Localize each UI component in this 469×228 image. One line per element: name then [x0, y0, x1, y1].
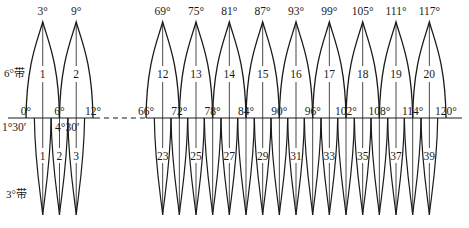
- central-meridian-label: 69°: [155, 5, 172, 17]
- three-degree-zone-31: 31: [288, 118, 305, 215]
- three-degree-boundary-label: 1°30′: [2, 121, 26, 133]
- central-meridian-label: 81°: [221, 5, 238, 17]
- zone-number: 33: [324, 150, 336, 162]
- zone-number: 2: [57, 150, 63, 162]
- zone-number: 19: [390, 68, 402, 80]
- zone-number: 31: [290, 150, 302, 162]
- central-meridian-label: 75°: [188, 5, 205, 17]
- zone-number: 13: [190, 68, 202, 80]
- zone-number: 29: [257, 150, 269, 162]
- zone-number: 3: [73, 150, 79, 162]
- three-degree-zone-25: 25: [188, 118, 205, 215]
- six-degree-zones: 13°29°1269°1375°1481°1587°1693°1799°1810…: [26, 5, 446, 118]
- boundary-degree-label: 12°: [85, 105, 102, 117]
- zone-number: 39: [424, 150, 436, 162]
- six-degree-zone-2: 29°: [59, 5, 92, 118]
- zone-number: 37: [390, 150, 402, 162]
- three-degree-zone-36: [371, 118, 388, 215]
- six-degree-zone-1: 13°: [26, 5, 59, 118]
- boundary-degree-label: 84°: [238, 105, 255, 117]
- zone-number: 16: [290, 68, 302, 80]
- central-meridian-label: 87°: [255, 5, 272, 17]
- three-degree-band-label: 3°带: [6, 188, 27, 200]
- zone-number: 18: [357, 68, 369, 80]
- three-degree-zone-38: [404, 118, 421, 215]
- boundary-degree-label: 78°: [205, 105, 222, 117]
- six-degree-zone-17: 1799°: [313, 5, 346, 118]
- boundary-degree-label: 72°: [171, 105, 188, 117]
- boundary-degree-label: 102°: [335, 105, 357, 117]
- six-degree-zone-15: 1587°: [246, 5, 279, 118]
- boundary-degree-label: 120°: [435, 105, 457, 117]
- boundary-degree-label: 90°: [271, 105, 288, 117]
- three-degree-zone-27: 27: [221, 118, 238, 215]
- zone-number: 14: [224, 68, 236, 80]
- central-meridian-label: 99°: [321, 5, 338, 17]
- six-degree-band-label: 6°带: [4, 67, 25, 79]
- central-meridian-label: 9°: [71, 5, 82, 17]
- three-degree-zone-37: 37: [388, 118, 405, 215]
- boundary-degree-label: 96°: [305, 105, 322, 117]
- boundary-degree-label: 114°: [402, 105, 424, 117]
- three-degree-zone-28: [238, 118, 255, 215]
- six-degree-zone-19: 19111°: [379, 5, 412, 118]
- three-degree-zone-26: [204, 118, 221, 215]
- central-meridian-label: 93°: [288, 5, 305, 17]
- zone-number: 2: [73, 68, 79, 80]
- three-degree-zone-24: [171, 118, 188, 215]
- three-degree-zone-32: [304, 118, 321, 215]
- three-degree-zone-23: 23: [154, 118, 171, 215]
- six-degree-zone-18: 18105°: [346, 5, 379, 118]
- six-degree-zone-20: 20117°: [413, 5, 446, 118]
- zone-number: 1: [40, 68, 46, 80]
- zone-number: 35: [357, 150, 369, 162]
- six-degree-zone-12: 1269°: [146, 5, 179, 118]
- zone-number: 17: [324, 68, 336, 80]
- six-degree-zone-13: 1375°: [179, 5, 212, 118]
- six-degree-zone-16: 1693°: [279, 5, 312, 118]
- three-degree-zones: 123232527293133353739: [34, 118, 437, 215]
- zone-number: 25: [190, 150, 202, 162]
- three-degree-zone-30: [271, 118, 288, 215]
- zone-number: 12: [157, 68, 169, 80]
- boundary-degree-label: 0°: [21, 105, 32, 117]
- three-degree-zone-34: [338, 118, 355, 215]
- zone-number: 1: [40, 150, 46, 162]
- central-meridian-label: 111°: [386, 5, 407, 17]
- three-degree-boundary-label: 4°30′: [55, 121, 79, 133]
- three-degree-zone-33: 33: [321, 118, 338, 215]
- three-degree-zone-39: 39: [421, 118, 438, 215]
- boundary-degree-label: 108°: [368, 105, 390, 117]
- zone-number: 27: [224, 150, 236, 162]
- central-meridian-label: 105°: [352, 5, 374, 17]
- six-degree-zone-14: 1481°: [213, 5, 246, 118]
- central-meridian-label: 117°: [419, 5, 441, 17]
- boundary-degree-label: 66°: [138, 105, 155, 117]
- zone-diagram-canvas: 13°29°1269°1375°1481°1587°1693°1799°1810…: [0, 0, 469, 228]
- three-degree-zone-1: 1: [34, 118, 51, 215]
- central-meridian-label: 3°: [38, 5, 49, 17]
- zone-number: 15: [257, 68, 269, 80]
- three-degree-zone-35: 35: [354, 118, 371, 215]
- zone-number: 20: [424, 68, 436, 80]
- boundary-degree-label: 6°: [54, 105, 65, 117]
- three-degree-zone-29: 29: [254, 118, 271, 215]
- zone-number: 23: [157, 150, 169, 162]
- projection-zone-diagram: 13°29°1269°1375°1481°1587°1693°1799°1810…: [0, 0, 469, 228]
